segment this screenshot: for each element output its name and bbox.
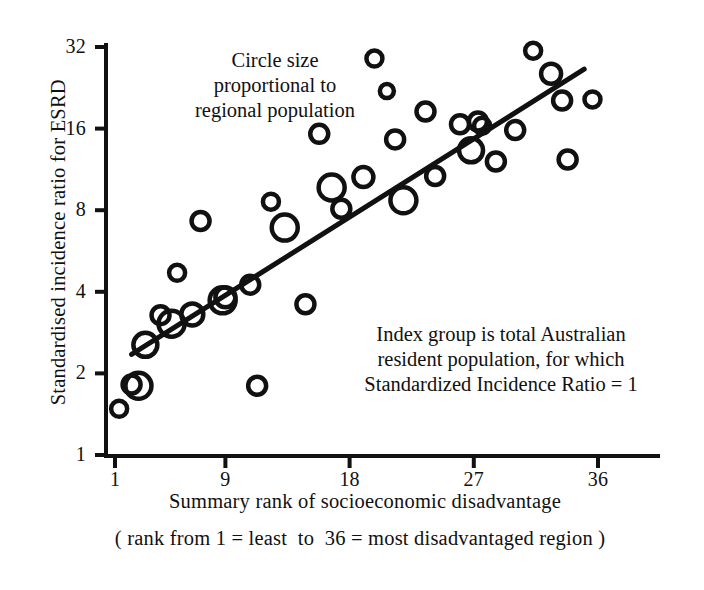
data-point-circle	[390, 187, 416, 213]
x-axis-title: Summary rank of socioeconomic disadvanta…	[80, 491, 650, 512]
data-point-circle	[248, 377, 266, 395]
y-axis-title: Standardised incidence ratio for ESRD	[48, 32, 69, 452]
x-axis-subtitle: ( rank from 1 = least to 36 = most disad…	[40, 528, 680, 549]
data-point-circle	[192, 212, 210, 230]
annotation-line: proportional to	[150, 73, 400, 98]
data-point-circle	[559, 151, 577, 169]
annotation-line: Index group is total Australian	[325, 322, 677, 347]
x-tick-label: 18	[320, 469, 380, 489]
data-point-circle	[451, 115, 469, 133]
annotation-line: Standardized Incidence Ratio = 1	[325, 372, 677, 397]
data-point-circle	[169, 265, 185, 281]
annotation-circle-size: Circle sizeproportional toregional popul…	[150, 48, 400, 123]
data-point-circle	[487, 152, 505, 170]
x-tick-label: 9	[195, 469, 255, 489]
annotation-index-group: Index group is total Australianresident …	[325, 322, 677, 397]
y-tick-label: 2	[40, 362, 86, 382]
data-point-circle	[353, 167, 373, 187]
data-point-circle	[272, 215, 298, 241]
y-tick-label: 32	[40, 36, 86, 56]
data-point-circle	[263, 194, 279, 210]
data-point-circle	[332, 200, 350, 218]
data-point-circle	[417, 103, 435, 121]
data-point-circle	[506, 121, 524, 139]
data-point-circle	[525, 43, 541, 59]
x-tick-label: 1	[85, 469, 145, 489]
y-tick-label: 8	[40, 199, 86, 219]
x-tick-label: 36	[568, 469, 628, 489]
annotation-line: Circle size	[150, 48, 400, 73]
data-point-circle	[319, 175, 345, 201]
y-tick-label: 1	[40, 444, 86, 464]
data-point-circle	[111, 401, 127, 417]
data-point-circle	[426, 167, 444, 185]
annotation-line: resident population, for which	[325, 347, 677, 372]
data-point-circle	[541, 64, 561, 84]
x-tick-label: 27	[444, 469, 504, 489]
data-point-circle	[386, 130, 404, 148]
data-point-circle	[310, 125, 328, 143]
data-point-circle	[584, 91, 600, 107]
y-tick-label: 4	[40, 281, 86, 301]
scatter-plot-figure: Standardised incidence ratio for ESRD 12…	[0, 0, 704, 590]
data-point-circle	[553, 92, 571, 110]
data-point-circle	[296, 295, 314, 313]
y-tick-label: 16	[40, 118, 86, 138]
annotation-line: regional population	[150, 98, 400, 123]
